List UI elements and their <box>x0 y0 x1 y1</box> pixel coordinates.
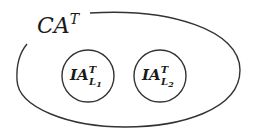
outer-set-label: CAT <box>37 11 81 38</box>
inner-set-2-label: IATL2 <box>141 64 174 89</box>
venn-diagram: CAT IATL1 IATL2 <box>0 0 254 134</box>
inner-set-1-label: IATL1 <box>69 64 102 89</box>
